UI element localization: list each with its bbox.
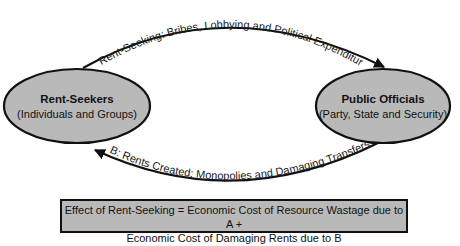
node-rent-seekers: Rent-Seekers (Individuals and Groups) <box>4 69 150 143</box>
node-subtitle: (Party, State and Security) <box>319 108 447 120</box>
edge-b-label: B: Rents Created: Monopolies and Damagin… <box>108 137 372 181</box>
node-public-officials: Public Officials (Party, State and Secur… <box>316 69 450 143</box>
node-title: Public Officials <box>341 93 424 105</box>
node-title: Rent-Seekers <box>40 93 114 105</box>
summary-box: Effect of Rent-Seeking = Economic Cost o… <box>60 199 408 233</box>
summary-line-2: Economic Cost of Damaging Rents due to B <box>62 231 406 245</box>
node-subtitle: (Individuals and Groups) <box>17 108 137 120</box>
summary-line-1: Effect of Rent-Seeking = Economic Cost o… <box>62 203 406 231</box>
edge-a-label: A: Rent-Seeking: Bribes, Lobbying and Po… <box>0 0 366 68</box>
